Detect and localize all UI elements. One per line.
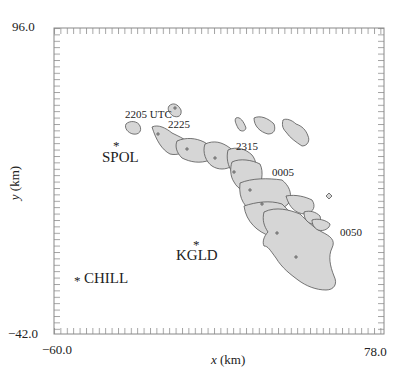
y-min-label: −42.0 (8, 326, 38, 342)
x-axis-title: x (km) (211, 352, 245, 368)
spol-label: SPOL (102, 149, 139, 166)
time-label-2225: 2225 (168, 118, 190, 130)
y-max-label: 96.0 (12, 19, 35, 35)
left-ticks (54, 28, 60, 334)
bottom-ticks (54, 328, 384, 334)
x-max-label: 78.0 (364, 344, 387, 360)
storm-outlines (125, 104, 335, 290)
y-axis-title: y (km) (7, 166, 23, 200)
x-min-label: −60.0 (42, 342, 72, 358)
kgld-label: KGLD (176, 247, 218, 264)
storm-track-plot (0, 0, 404, 378)
time-label-0050: 0050 (340, 226, 362, 238)
y-axis-unit: (km) (7, 166, 22, 195)
x-axis-unit: (km) (217, 352, 246, 367)
plot-frame (54, 28, 384, 334)
chill-label: CHILL (84, 270, 128, 287)
top-ticks (54, 28, 384, 34)
time-label-2315: 2315 (236, 140, 258, 152)
time-label-2205: 2205 UTC (125, 108, 172, 120)
chill-marker-icon: * (74, 273, 81, 289)
time-label-0005: 0005 (272, 166, 294, 178)
right-ticks (378, 28, 384, 334)
y-axis-var: y (7, 194, 22, 200)
